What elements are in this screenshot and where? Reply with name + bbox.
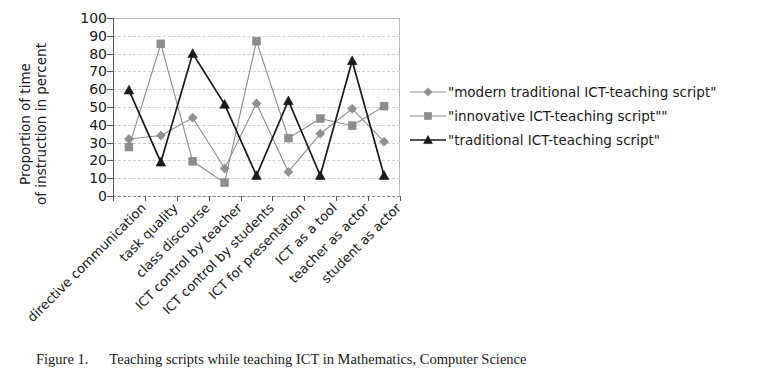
x-axis-tick-mark: [113, 196, 114, 201]
series-layer: [113, 18, 400, 196]
y-axis-tick-label: 60: [61, 84, 107, 94]
y-axis-tick-label: 10: [61, 173, 107, 183]
legend-item[interactable]: "modern traditional ICT-teaching script": [408, 80, 760, 104]
x-axis-tick-mark: [304, 196, 305, 201]
x-axis-tick-mark: [336, 196, 337, 201]
data-point-diamond: [188, 113, 197, 122]
x-axis-tick-mark: [400, 196, 401, 201]
caption-label: Figure 1.: [36, 351, 88, 367]
y-axis-tick-label: 80: [61, 49, 107, 59]
data-point-square: [221, 179, 229, 187]
y-axis-tick-label: 100: [61, 13, 107, 23]
data-point-triangle: [315, 171, 325, 180]
data-point-diamond: [424, 88, 432, 96]
data-point-square: [284, 134, 292, 142]
y-axis-tick-mark: [107, 36, 113, 37]
y-axis-title-line1: Proportion of time: [17, 29, 33, 219]
legend-label: "innovative ICT-teaching script"": [448, 108, 668, 124]
y-axis-tick-label: 0: [61, 191, 107, 201]
y-axis-tick-mark: [107, 71, 113, 72]
y-axis-tick-mark: [107, 125, 113, 126]
y-axis-tick-label: 90: [61, 31, 107, 41]
data-point-square: [157, 40, 165, 48]
legend-marker-triangle-icon: [408, 131, 448, 149]
data-point-diamond: [156, 131, 165, 140]
data-point-triangle: [188, 49, 198, 58]
data-point-square: [253, 37, 261, 45]
figure-caption: Figure 1. Teaching scripts while teachin…: [36, 350, 736, 368]
data-point-square: [125, 143, 133, 151]
data-point-triangle: [284, 96, 294, 105]
y-axis-tick-mark: [107, 160, 113, 161]
data-point-triangle: [347, 56, 357, 65]
series-line-1: [129, 41, 384, 183]
x-axis-tick-mark: [177, 196, 178, 201]
x-axis-tick-mark: [272, 196, 273, 201]
y-axis-tick-mark: [107, 178, 113, 179]
data-point-diamond: [252, 99, 261, 108]
y-axis-title: Proportion of time of instruction in per…: [17, 29, 49, 219]
y-axis-title-line2: of instruction in percent: [33, 29, 49, 219]
legend-item[interactable]: "traditional ICT-teaching script": [408, 128, 760, 152]
legend-label: "traditional ICT-teaching script": [448, 132, 660, 148]
data-point-triangle: [156, 157, 166, 166]
series-line-2: [129, 54, 384, 176]
data-point-square: [348, 122, 356, 130]
data-point-triangle: [220, 100, 230, 109]
legend-item[interactable]: "innovative ICT-teaching script"": [408, 104, 760, 128]
y-axis-tick-mark: [107, 54, 113, 55]
legend-marker-square-icon: [408, 107, 448, 125]
y-axis-tick-mark: [107, 18, 113, 19]
data-point-triangle: [252, 171, 262, 180]
caption-text: Teaching scripts while teaching ICT in M…: [109, 351, 526, 367]
data-point-square: [424, 112, 431, 119]
x-axis-tick-mark: [368, 196, 369, 201]
data-point-square: [189, 157, 197, 165]
legend-marker-diamond-icon: [408, 83, 448, 101]
x-axis-tick-mark: [145, 196, 146, 201]
data-point-triangle: [124, 85, 134, 94]
data-point-square: [380, 102, 388, 110]
y-axis-tick-label: 20: [61, 155, 107, 165]
y-axis-tick-mark: [107, 89, 113, 90]
legend-label: "modern traditional ICT-teaching script": [448, 84, 716, 100]
y-axis-tick-label: 70: [61, 66, 107, 76]
y-axis-tick-mark: [107, 107, 113, 108]
x-axis-tick-mark: [241, 196, 242, 201]
x-axis-line: [113, 196, 400, 197]
y-axis-tick-label: 40: [61, 120, 107, 130]
y-axis-tick-label: 50: [61, 102, 107, 112]
x-axis-tick-mark: [209, 196, 210, 201]
data-point-triangle: [379, 171, 389, 180]
legend: "modern traditional ICT-teaching script"…: [408, 80, 760, 152]
y-axis-tick-mark: [107, 143, 113, 144]
data-point-square: [316, 115, 324, 123]
x-axis-category-label: directive communication: [25, 201, 149, 325]
y-axis-tick-label: 30: [61, 138, 107, 148]
